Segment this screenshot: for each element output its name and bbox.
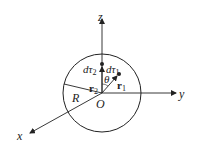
- radius-label: R: [71, 91, 80, 105]
- y-axis-label: y: [178, 87, 185, 101]
- r2-label: r2: [89, 82, 98, 96]
- dtau2-label: dτ2: [83, 63, 96, 77]
- origin-label: O: [96, 97, 105, 111]
- x-axis-label: x: [16, 129, 23, 143]
- dtau2-point: [100, 62, 104, 66]
- sphere-diagram: z y x O R θ dτ2 dτ1 r2 r1: [0, 0, 201, 152]
- z-axis-label: z: [97, 10, 103, 24]
- dtau1-label: dτ1: [106, 63, 119, 77]
- r1-label: r1: [117, 79, 126, 93]
- x-axis: [30, 93, 102, 133]
